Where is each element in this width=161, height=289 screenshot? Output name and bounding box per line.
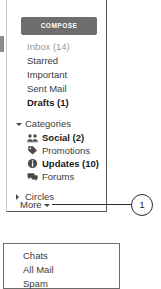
dropdown-item-spam[interactable]: Spam xyxy=(4,277,119,289)
sidebar-group-categories[interactable]: Categories xyxy=(7,117,106,131)
chevron-down-icon xyxy=(44,204,50,207)
triangle-down-icon xyxy=(16,117,25,131)
more-dropdown-panel: Chats All Mail Spam xyxy=(3,243,120,289)
compose-button-wrapper: COMPOSE xyxy=(21,14,97,32)
more-dropdown-list: Chats All Mail Spam xyxy=(4,244,119,289)
sidebar-panel: COMPOSE Inbox (14) Starred Important Sen… xyxy=(6,0,107,212)
sidebar-group-label: Categories xyxy=(25,117,71,131)
mail-nav-list: Inbox (14) Starred Important Sent Mail D… xyxy=(7,40,106,204)
scrollbar-nub[interactable] xyxy=(0,36,4,52)
sidebar-item-sent-mail[interactable]: Sent Mail xyxy=(7,82,106,96)
sidebar-item-promotions[interactable]: Promotions xyxy=(7,144,106,157)
sidebar-item-label: Important xyxy=(27,69,67,80)
sidebar-item-social[interactable]: Social (2) xyxy=(7,131,106,144)
callout-leader-line xyxy=(52,204,132,205)
sidebar-item-starred[interactable]: Starred xyxy=(7,54,106,68)
tag-icon xyxy=(27,145,38,156)
callout-badge-1: 1 xyxy=(131,194,153,216)
sidebar-item-forums[interactable]: Forums xyxy=(7,170,106,183)
dropdown-item-chats[interactable]: Chats xyxy=(4,249,119,263)
sidebar-more-label: More xyxy=(20,199,42,210)
sidebar-item-label: Sent Mail xyxy=(27,83,67,94)
sidebar-item-label: Social (2) xyxy=(42,131,84,144)
sidebar-item-label: Starred xyxy=(27,55,58,66)
dropdown-item-label: Chats xyxy=(23,250,48,261)
sidebar-item-drafts[interactable]: Drafts (1) xyxy=(7,96,106,110)
sidebar-item-inbox[interactable]: Inbox (14) xyxy=(7,40,106,54)
dropdown-item-label: All Mail xyxy=(23,264,54,275)
sidebar-more-button[interactable]: More xyxy=(0,198,50,212)
sidebar-item-label: Promotions xyxy=(42,144,90,157)
people-icon xyxy=(27,132,38,143)
dropdown-item-label: Spam xyxy=(23,278,48,289)
dropdown-item-all-mail[interactable]: All Mail xyxy=(4,263,119,277)
info-circle-icon xyxy=(27,158,38,169)
sidebar-item-label: Drafts (1) xyxy=(27,97,69,108)
sidebar-item-updates[interactable]: Updates (10) xyxy=(7,157,106,170)
sidebar-item-label: Inbox (14) xyxy=(27,41,70,52)
speech-bubbles-icon xyxy=(27,171,38,182)
sidebar-item-label: Forums xyxy=(42,170,74,183)
compose-button[interactable]: COMPOSE xyxy=(21,17,97,35)
sidebar-item-label: Updates (10) xyxy=(42,157,99,170)
sidebar-item-important[interactable]: Important xyxy=(7,68,106,82)
